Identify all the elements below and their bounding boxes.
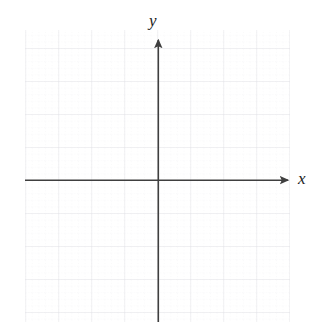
x-axis-label: x [298,170,306,187]
coordinate-plane-canvas [0,0,327,335]
coordinate-plane-figure: y x [0,0,327,335]
y-axis-label: y [149,12,157,29]
